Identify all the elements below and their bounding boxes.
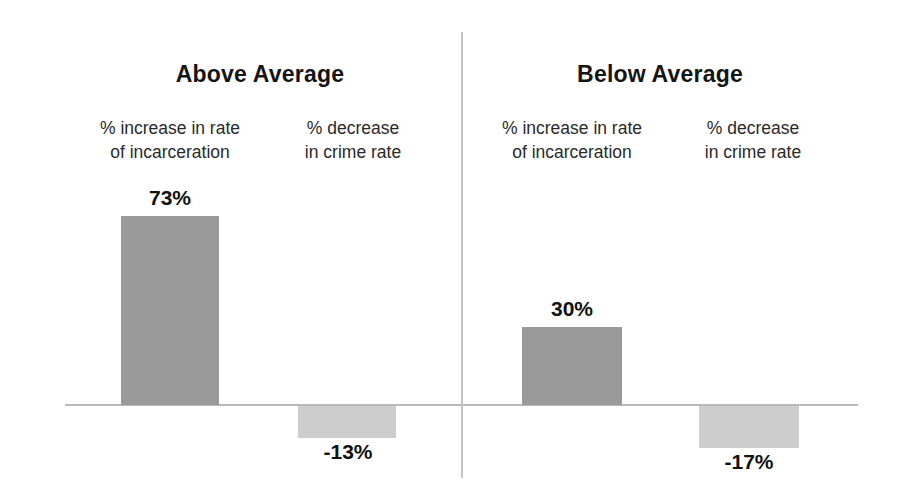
series-label-below-crime: % decrease in crime rate xyxy=(678,116,828,164)
bar-above-average-crime xyxy=(298,406,396,438)
series-label-below-incarceration: % increase in rate of incarceration xyxy=(462,116,682,164)
bar-chart-figure: Above Average % increase in rate of inca… xyxy=(0,0,902,497)
series-label-above-incarceration: % increase in rate of incarceration xyxy=(60,116,280,164)
series-label-above-crime: % decrease in crime rate xyxy=(278,116,428,164)
value-label-below-incarceration: 30% xyxy=(512,297,632,321)
value-label-above-crime: -13% xyxy=(288,440,408,464)
value-label-below-crime: -17% xyxy=(689,450,809,474)
panel-divider-line xyxy=(461,32,463,478)
bar-below-average-crime xyxy=(699,406,799,448)
panel-title-above-average: Above Average xyxy=(80,60,440,88)
bar-above-average-incarceration xyxy=(121,216,219,405)
panel-title-below-average: Below Average xyxy=(480,60,840,88)
value-label-above-incarceration: 73% xyxy=(110,186,230,210)
bar-below-average-incarceration xyxy=(522,327,622,405)
